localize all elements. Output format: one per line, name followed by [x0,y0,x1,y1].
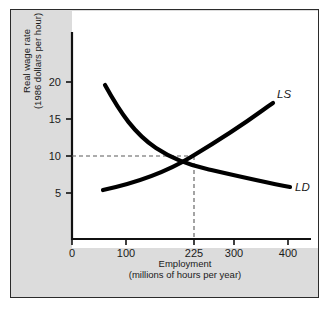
y-axis-title-line2: (1986 dollars per hour) [32,0,43,126]
y-axis-title-line1: Real wage rate [21,0,32,126]
y-tick-label-15: 15 [49,113,61,125]
labor-demand-label: LD [295,181,310,193]
y-tick-label-20: 20 [49,76,61,88]
y-tick-label-10: 10 [49,150,61,162]
chart-svg: 5 10 15 20 0 100 225 300 400 LS LD [11,10,320,299]
x-axis-title-line1: Employment [85,258,285,269]
y-axis-title: Real wage rate (1986 dollars per hour) [21,0,43,126]
x-axis-title: Employment (millions of hours per year) [85,258,285,280]
labor-supply-label: LS [277,88,291,100]
x-tick-label-0: 0 [69,247,75,259]
y-tick-label-5: 5 [55,187,61,199]
x-axis-title-line2: (millions of hours per year) [85,269,285,280]
figure-frame: 5 10 15 20 0 100 225 300 400 LS LD Real … [10,9,319,298]
axis-lines [72,32,311,239]
labor-demand-curve [105,85,290,187]
y-axis-title-wrapper: Real wage rate (1986 dollars per hour) [21,0,43,126]
